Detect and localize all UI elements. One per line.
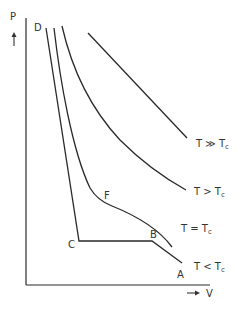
isotherm-t-much-greater-tc [88,33,187,138]
label-t-much-greater-tc: T ≫ Tc [195,138,229,151]
x-axis-label: V [206,288,213,299]
label-t-equal-tc: T = Tc [180,223,212,236]
point-b-label: B [150,229,157,240]
point-a-label: A [177,269,184,280]
point-c-label: C [68,239,75,250]
svg-text:T ≫ Tc: T ≫ Tc [195,138,229,151]
isotherm-t-less-tc [46,28,182,263]
y-axis-arrow-icon [12,32,17,46]
pv-diagram: P V D C B A F T ≫ Tc T > Tc T = Tc T < T… [0,0,240,315]
label-t-less-tc: T < Tc [193,261,225,274]
y-axis-label: P [10,11,16,22]
point-f-label: F [104,190,110,201]
x-axis-arrow-icon [187,291,200,296]
label-t-greater-tc: T > Tc [193,186,225,199]
svg-text:T > Tc: T > Tc [193,186,225,199]
svg-text:T < Tc: T < Tc [193,261,225,274]
point-d-label: D [34,22,42,33]
svg-text:T = Tc: T = Tc [180,223,212,236]
